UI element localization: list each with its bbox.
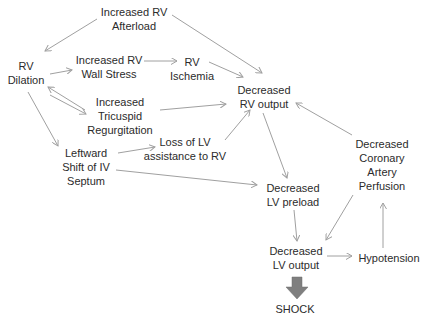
arrow-dilation-to-wallstress xyxy=(50,70,72,74)
node-line: LV preload xyxy=(266,195,319,209)
node-line: Shift of IV xyxy=(62,160,110,174)
node-line: SHOCK xyxy=(275,302,314,316)
node-line: RV xyxy=(8,59,45,73)
node-shock: SHOCK xyxy=(275,302,314,316)
node-line: Septum xyxy=(62,174,110,188)
node-line: Decreased xyxy=(269,244,322,258)
node-line: Increased RV xyxy=(101,5,167,19)
arrow-dilation-to-septum xyxy=(28,92,58,146)
node-line: RV output xyxy=(237,97,290,111)
arrow-coronary-to-rvoutput xyxy=(296,103,352,135)
node-line: Decreased xyxy=(237,83,290,97)
arrow-lossLV-to-rvoutput xyxy=(225,110,250,140)
arrow-dilation-to-tricuspid xyxy=(50,95,86,114)
node-line: Decreased xyxy=(355,137,408,151)
node-rv-ischemia: RV Ischemia xyxy=(170,55,214,83)
arrow-tricuspid-to-dilation xyxy=(48,87,85,110)
node-line: Dilation xyxy=(8,73,45,87)
arrow-tricuspid-to-rvoutput xyxy=(160,104,226,110)
node-line: Coronary xyxy=(355,151,408,165)
arrow-afterload-to-dilation xyxy=(45,19,97,51)
node-line: Ischemia xyxy=(170,69,214,83)
node-line: assistance to RV xyxy=(144,149,226,163)
node-line: Hypotension xyxy=(358,251,419,265)
node-decreased-lv-output: Decreased LV output xyxy=(269,244,322,272)
node-increased-rv-afterload: Increased RV Afterload xyxy=(101,5,167,33)
arrow-lvpreload-to-lvoutput xyxy=(294,210,297,241)
node-line: Leftward xyxy=(62,146,110,160)
node-leftward-shift-iv-septum: Leftward Shift of IV Septum xyxy=(62,146,110,188)
node-decreased-coronary-artery-perfusion: Decreased Coronary Artery Perfusion xyxy=(355,137,408,193)
arrow-septum-to-lvpreload xyxy=(116,170,257,185)
node-rv-dilation: RV Dilation xyxy=(8,59,45,87)
node-decreased-lv-preload: Decreased LV preload xyxy=(266,181,319,209)
arrow-rvoutput-to-lvpreload xyxy=(263,113,287,178)
node-line: Tricuspid xyxy=(87,109,152,123)
node-line: Loss of LV xyxy=(144,135,226,149)
node-line: Perfusion xyxy=(355,179,408,193)
node-line: Artery xyxy=(355,165,408,179)
node-line: Afterload xyxy=(101,19,167,33)
node-hypotension: Hypotension xyxy=(358,251,419,265)
node-increased-tricuspid-regurgitation: Increased Tricuspid Regurgitation xyxy=(87,95,152,137)
node-line: LV output xyxy=(269,258,322,272)
node-line: Wall Stress xyxy=(76,67,142,81)
node-line: Increased RV xyxy=(76,53,142,67)
node-line: Increased xyxy=(87,95,152,109)
shock-block-arrow-icon xyxy=(286,277,308,299)
node-line: Decreased xyxy=(266,181,319,195)
arrow-ischemia-to-rvoutput xyxy=(209,62,243,77)
arrow-coronary-to-lvoutput xyxy=(326,195,353,240)
node-line: RV xyxy=(170,55,214,69)
node-loss-of-lv-assistance: Loss of LV assistance to RV xyxy=(144,135,226,163)
node-increased-rv-wall-stress: Increased RV Wall Stress xyxy=(76,53,142,81)
node-decreased-rv-output: Decreased RV output xyxy=(237,83,290,111)
